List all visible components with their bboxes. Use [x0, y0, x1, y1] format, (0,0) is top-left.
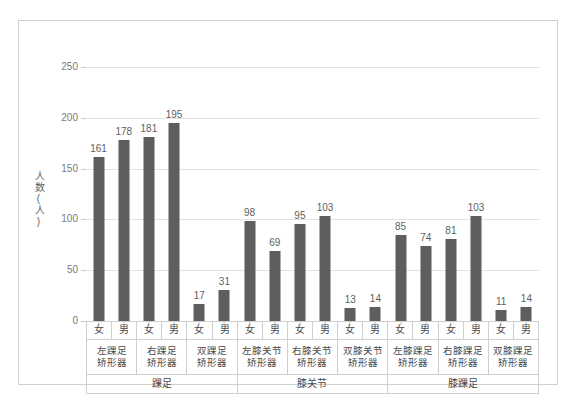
gender-cell: 男	[413, 322, 438, 340]
bar[interactable]	[219, 290, 230, 321]
y-tick-label-100: 100	[61, 214, 78, 224]
category-axis-table: 女男女男女男女男女男女男女男女男女男 左踝足矫形器右踝足矫形器双踝足矫形器左膝关…	[86, 321, 539, 394]
product-name-line2: 矫形器	[188, 357, 235, 369]
product-cell: 右膝关节矫形器	[287, 340, 337, 375]
gender-cell: 男	[162, 322, 187, 340]
bar[interactable]	[420, 246, 431, 321]
bar-value-label: 17	[194, 291, 205, 301]
bar-value-label: 161	[90, 144, 107, 154]
gender-cell: 女	[388, 322, 413, 340]
product-name-line1: 左膝踝足	[389, 345, 436, 357]
gender-cell: 男	[312, 322, 337, 340]
bar-value-label: 69	[269, 238, 280, 248]
bar[interactable]	[471, 216, 482, 321]
bar-slot: 85	[388, 67, 413, 321]
gender-cell: 女	[237, 322, 262, 340]
product-name-line1: 双膝关节	[339, 345, 386, 357]
product-name-line2: 矫形器	[389, 357, 436, 369]
bar-value-label: 14	[370, 294, 381, 304]
y-axis-label: 人数(人)	[31, 171, 46, 228]
bar[interactable]	[521, 307, 532, 321]
bar-slot: 11	[489, 67, 514, 321]
bar-value-label: 11	[496, 297, 506, 307]
bar[interactable]	[320, 216, 331, 321]
product-name-line2: 矫形器	[339, 357, 386, 369]
bar-value-label: 103	[468, 203, 485, 213]
bar-value-label: 195	[166, 110, 183, 120]
product-row: 左踝足矫形器右踝足矫形器双踝足矫形器左膝关节矫形器右膝关节矫形器双膝关节矫形器左…	[87, 340, 539, 375]
product-name-line1: 右膝关节	[289, 345, 336, 357]
y-tick-label-200: 200	[61, 113, 78, 123]
y-tick-label-250: 250	[61, 62, 78, 72]
bar-slot: 81	[438, 67, 463, 321]
product-cell: 双踝足矫形器	[187, 340, 237, 375]
bar[interactable]	[169, 123, 180, 321]
product-name-line2: 矫形器	[138, 357, 185, 369]
y-tick-label-50: 50	[67, 265, 78, 275]
gender-cell: 女	[488, 322, 513, 340]
bar-slot: 178	[111, 67, 136, 321]
bar-value-label: 31	[219, 277, 230, 287]
y-tick-label-0: 0	[72, 316, 78, 326]
product-name-line1: 双膝踝足	[490, 345, 537, 357]
product-name-line1: 双踝足	[188, 345, 235, 357]
category-cell: 膝关节	[237, 375, 388, 394]
category-cell: 膝踝足	[388, 375, 539, 394]
product-name-line2: 矫形器	[239, 357, 286, 369]
gender-cell: 女	[438, 322, 463, 340]
product-name-line2: 矫形器	[88, 357, 135, 369]
gender-cell: 男	[463, 322, 488, 340]
bar[interactable]	[395, 235, 406, 321]
gender-cell: 女	[338, 322, 363, 340]
bar[interactable]	[496, 310, 507, 321]
bar-slot: 181	[136, 67, 161, 321]
product-name-line1: 右膝踝足	[440, 345, 487, 357]
product-name-line1: 右踝足	[138, 345, 185, 357]
bar[interactable]	[118, 140, 129, 321]
bar[interactable]	[294, 224, 305, 321]
bar-slot: 31	[212, 67, 237, 321]
product-name-line2: 矫形器	[289, 357, 336, 369]
bar[interactable]	[345, 308, 356, 321]
bar-slot: 195	[162, 67, 187, 321]
bar-value-label: 81	[445, 226, 456, 236]
chart-figure: 人数(人) 0501001502002501611781811951731986…	[18, 20, 558, 385]
bar-value-label: 98	[244, 208, 255, 218]
product-cell: 双膝关节矫形器	[338, 340, 388, 375]
gender-cell: 男	[262, 322, 287, 340]
bar-value-label: 13	[345, 295, 356, 305]
bar[interactable]	[370, 307, 381, 321]
category-row: 踝足膝关节膝踝足	[87, 375, 539, 394]
bar-slot: 14	[363, 67, 388, 321]
bar[interactable]	[445, 239, 456, 321]
bar[interactable]	[93, 157, 104, 321]
bar-value-label: 178	[115, 127, 132, 137]
gender-cell: 男	[363, 322, 388, 340]
bar[interactable]	[194, 304, 205, 321]
product-name-line2: 矫形器	[490, 357, 537, 369]
gender-cell: 女	[287, 322, 312, 340]
gender-row: 女男女男女男女男女男女男女男女男女男	[87, 322, 539, 340]
bar-slot: 161	[86, 67, 111, 321]
bar-slot: 103	[313, 67, 338, 321]
bar[interactable]	[244, 221, 255, 321]
bar-value-label: 103	[317, 203, 334, 213]
gender-cell: 女	[87, 322, 112, 340]
gender-cell: 女	[137, 322, 162, 340]
bar-value-label: 95	[294, 211, 305, 221]
bar-slot: 14	[514, 67, 539, 321]
bar-slot: 17	[187, 67, 212, 321]
gender-cell: 男	[112, 322, 137, 340]
product-cell: 右踝足矫形器	[137, 340, 187, 375]
plot-area: 0501001502002501611781811951731986995103…	[86, 67, 539, 321]
y-tick-label-150: 150	[61, 164, 78, 174]
bar-slot: 98	[237, 67, 262, 321]
bar[interactable]	[269, 251, 280, 321]
product-name-line2: 矫形器	[440, 357, 487, 369]
product-cell: 左膝关节矫形器	[237, 340, 287, 375]
product-cell: 左踝足矫形器	[87, 340, 137, 375]
product-name-line1: 左膝关节	[239, 345, 286, 357]
product-cell: 双膝踝足矫形器	[488, 340, 538, 375]
bar[interactable]	[143, 137, 154, 321]
product-cell: 左膝踝足矫形器	[388, 340, 438, 375]
